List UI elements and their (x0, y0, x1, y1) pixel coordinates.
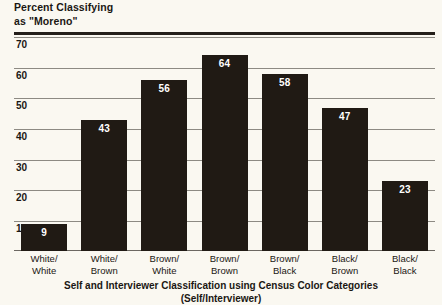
category-label-line: Black (375, 265, 435, 277)
category-label-line: Brown/ (134, 253, 194, 265)
bar-value-label: 47 (322, 111, 368, 122)
chart-title-line-2: as "Moreno" (14, 15, 274, 29)
category-label-line: Brown/ (255, 253, 315, 265)
bar-slot: 47 (322, 35, 368, 251)
x-axis-category-label: Black/Black (375, 253, 435, 277)
bar-value-label: 23 (382, 184, 428, 195)
category-label-line: White (134, 265, 194, 277)
x-axis-category-label: Brown/Brown (194, 253, 254, 277)
bar-slot: 23 (382, 35, 428, 251)
chart-title: Percent Classifying as "Moreno" (14, 1, 274, 28)
category-label-line: Black/ (375, 253, 435, 265)
bar[interactable]: 56 (141, 80, 187, 251)
bar-value-label: 64 (202, 58, 248, 69)
bars-group: 9435664584723 (14, 35, 435, 251)
category-label-line: White/ (14, 253, 74, 265)
bar-slot: 56 (141, 35, 187, 251)
category-label-line: White/ (74, 253, 134, 265)
bar-value-label: 43 (81, 123, 127, 134)
bar[interactable]: 23 (382, 181, 428, 251)
x-axis-category-label: White/Brown (74, 253, 134, 277)
chart-figure: Percent Classifying as "Moreno" 70605040… (0, 0, 442, 305)
bar-slot: 64 (202, 35, 248, 251)
category-label-line: White (14, 265, 74, 277)
category-label-line: Brown/ (194, 253, 254, 265)
bar-value-label: 56 (141, 83, 187, 94)
bar[interactable]: 47 (322, 108, 368, 251)
chart-title-line-1: Percent Classifying (14, 1, 274, 15)
category-label-line: Brown (74, 265, 134, 277)
x-axis-title-line-1: Self and Interviewer Classification usin… (0, 280, 442, 293)
x-axis-category-labels: White/WhiteWhite/BrownBrown/WhiteBrown/B… (14, 253, 435, 279)
bar[interactable]: 58 (262, 74, 308, 251)
category-label-line: Black (255, 265, 315, 277)
bar-slot: 43 (81, 35, 127, 251)
bar-slot: 9 (21, 35, 67, 251)
x-axis-title-line-2: (Self/Interviewer) (0, 293, 442, 305)
bar-value-label: 58 (262, 77, 308, 88)
bar[interactable]: 9 (21, 224, 67, 251)
x-axis-category-label: Brown/Black (255, 253, 315, 277)
bar[interactable]: 64 (202, 55, 248, 251)
category-label-line: Brown (194, 265, 254, 277)
bar-slot: 58 (262, 35, 308, 251)
x-axis-category-label: Black/Brown (315, 253, 375, 277)
bar[interactable]: 43 (81, 120, 127, 251)
plot-area: 70605040302010 9435664584723 (14, 35, 435, 251)
x-axis-category-label: White/White (14, 253, 74, 277)
category-label-line: Brown (315, 265, 375, 277)
x-axis-category-label: Brown/White (134, 253, 194, 277)
bar-value-label: 9 (21, 227, 67, 238)
category-label-line: Black/ (315, 253, 375, 265)
x-axis-title: Self and Interviewer Classification usin… (0, 280, 442, 305)
